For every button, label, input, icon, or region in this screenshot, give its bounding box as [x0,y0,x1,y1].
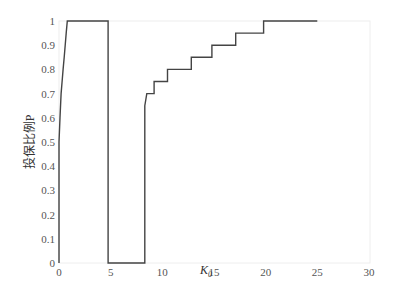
y-tick-label: 0.4 [41,160,55,172]
y-tick-label: 0.3 [41,184,55,196]
y-tick-label: 0.8 [41,63,55,75]
x-tick-label: 30 [364,266,376,278]
y-tick-label: 0.2 [41,209,55,221]
y-tick-label: 0 [50,257,56,269]
y-tick-label: 0.7 [41,88,55,100]
x-tick-label: 5 [108,266,114,278]
x-tick-label: 0 [56,266,62,278]
x-tick-label: 20 [260,266,272,278]
x-axis-ticks: 051015202530 [56,266,375,278]
y-tick-label: 0.9 [41,39,55,51]
y-tick-label: 0.1 [41,233,55,245]
x-tick-label: 25 [312,266,324,278]
y-tick-label: 0.5 [41,136,55,148]
x-axis-label-subscript: 0 [208,270,212,279]
y-axis-label: 投保比例P [22,114,37,169]
y-tick-label: 1 [50,15,56,27]
y-tick-label: 0.6 [41,112,55,124]
step-chart: 051015202530 00.10.20.30.40.50.60.70.80.… [0,0,398,299]
plot-area [59,21,370,263]
y-axis-ticks: 00.10.20.30.40.50.60.70.80.91 [41,15,55,269]
x-tick-label: 10 [157,266,169,278]
